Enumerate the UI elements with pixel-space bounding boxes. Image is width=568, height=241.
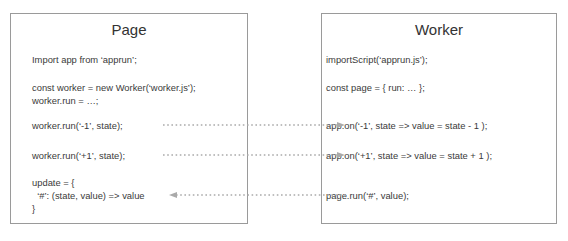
arrow-run-minus (163, 122, 345, 128)
arrowhead-right-icon (337, 152, 345, 158)
arrowhead-right-icon (337, 122, 345, 128)
arrow-page-run (169, 192, 346, 198)
message-arrows (0, 0, 568, 241)
arrow-run-plus (163, 152, 345, 158)
arrowhead-left-icon (169, 192, 177, 198)
